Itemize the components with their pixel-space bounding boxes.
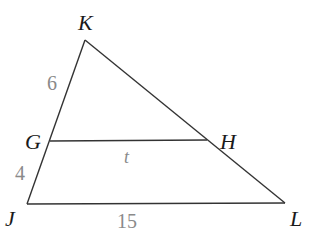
- segment-KJ: [27, 40, 85, 204]
- segment-GH: [50, 140, 207, 141]
- vertex-label-G: G: [25, 129, 41, 154]
- vertex-label-K: K: [77, 10, 94, 35]
- vertex-label-J: J: [5, 206, 16, 231]
- vertex-label-L: L: [289, 206, 302, 231]
- vertex-label-H: H: [219, 129, 237, 154]
- measure-GJ: 4: [15, 162, 25, 184]
- measure-GH: t: [124, 147, 130, 167]
- segment-KL: [85, 40, 285, 203]
- measure-KG: 6: [47, 72, 57, 94]
- triangle-diagram: K G H J L 6 4 t 15: [0, 0, 309, 245]
- segment-JL: [27, 203, 285, 204]
- measure-JL: 15: [117, 210, 137, 232]
